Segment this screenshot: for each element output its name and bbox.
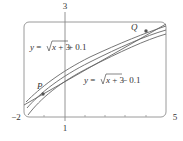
label-x-min: −2 [11,112,21,122]
label-x-max: 5 [173,112,178,122]
svg-text:− 0.1: − 0.1 [122,75,141,85]
point-p-marker [41,92,44,95]
chart-canvas: 3 1 −2 5 P Q y = x + 3 + 0.1 y = x + 3 −… [0,0,183,141]
label-point-p: P [36,81,43,91]
svg-text:y =: y = [29,42,41,52]
curve-lower [28,34,166,115]
label-bottom-1: 1 [63,123,68,133]
label-upper-curve: y = x + 3 + 0.1 [29,41,87,52]
label-point-q: Q [131,22,138,32]
svg-text:y =: y = [83,75,95,85]
point-q-marker [144,29,147,32]
svg-text:+ 0.1: + 0.1 [68,42,87,52]
label-top-3: 3 [63,1,68,11]
secant-line-pq [24,24,166,105]
label-lower-curve: y = x + 3 − 0.1 [83,74,141,85]
